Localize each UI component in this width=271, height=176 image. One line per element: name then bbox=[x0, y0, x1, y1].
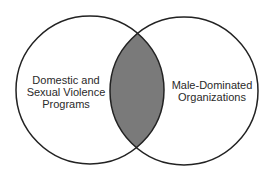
label-male-dominated-organizations: Male-Dominated Organizations bbox=[166, 79, 258, 103]
label-domestic-sexual-violence-programs: Domestic and Sexual Violence Programs bbox=[24, 74, 108, 110]
venn-diagram: Domestic and Sexual Violence Programs Ma… bbox=[0, 0, 271, 176]
label-left-line-1: Domestic and bbox=[24, 74, 108, 86]
label-right-line-1: Male-Dominated bbox=[166, 79, 258, 91]
label-right-line-2: Organizations bbox=[166, 91, 258, 103]
label-left-line-2: Sexual Violence bbox=[24, 86, 108, 98]
label-left-line-3: Programs bbox=[24, 98, 108, 110]
